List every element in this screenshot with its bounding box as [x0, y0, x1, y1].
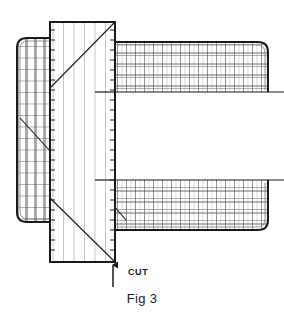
- center-board-grain: [50, 22, 115, 262]
- cut-label: CUT: [128, 267, 148, 277]
- upper-right-band-hatch: [115, 42, 268, 92]
- upper-right-band: [115, 42, 268, 92]
- center-board: [50, 22, 115, 262]
- left-block-hatch: [17, 38, 52, 222]
- figure-caption: Fig 3: [0, 291, 284, 306]
- figure-container: CUT Fig 3: [0, 0, 284, 323]
- left-block: [17, 38, 52, 222]
- lower-right-band: [114, 180, 268, 230]
- lower-right-band-hatch: [115, 180, 268, 230]
